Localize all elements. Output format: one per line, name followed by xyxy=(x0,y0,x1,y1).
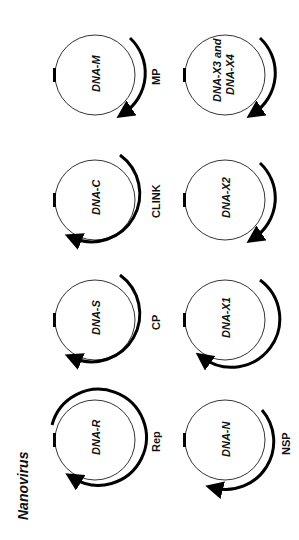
cr-box xyxy=(183,313,186,327)
nanovirus-genome-diagram: Nanovirus DNA-M DNA-C DNA-S DNA-R DNA-X3… xyxy=(0,0,299,540)
component-dna-r: DNA-R xyxy=(52,389,146,485)
protein-label-mp: MP xyxy=(150,69,162,86)
orf-arrow xyxy=(203,280,280,367)
protein-label-cp: CP xyxy=(150,315,162,330)
label-dna-x2: DNA-X2 xyxy=(220,177,232,218)
component-dna-x3-x4: DNA-X3 and DNA-X4 xyxy=(183,35,275,115)
protein-label-clink: CLINK xyxy=(150,184,162,218)
component-dna-s: DNA-S xyxy=(53,275,140,362)
label-dna-r: DNA-R xyxy=(90,420,102,455)
cr-box xyxy=(53,193,56,207)
cr-box xyxy=(183,193,186,207)
cr-box xyxy=(183,68,186,82)
cr-box xyxy=(53,313,56,327)
label-dna-x1: DNA-X1 xyxy=(220,297,232,338)
protein-label-nsp: NSP xyxy=(280,432,292,455)
component-dna-n: DNA-N xyxy=(183,400,274,489)
component-dna-c: DNA-C xyxy=(53,155,140,242)
label-dna-x3: DNA-X3 and xyxy=(211,38,223,102)
title-nanovirus: Nanovirus xyxy=(15,451,31,520)
label-dna-m: DNA-M xyxy=(90,55,102,92)
cr-box xyxy=(53,68,56,82)
label-dna-s: DNA-S xyxy=(90,300,102,335)
label-dna-n: DNA-N xyxy=(220,421,232,457)
component-dna-x2: DNA-X2 xyxy=(183,160,275,240)
protein-label-rep: Rep xyxy=(150,431,162,452)
label-dna-x4: DNA-X4 xyxy=(224,54,236,95)
orf-arrow xyxy=(73,275,140,362)
cr-box xyxy=(53,433,56,447)
label-dna-c: DNA-C xyxy=(90,179,102,215)
cr-box xyxy=(183,433,186,447)
component-dna-m: DNA-M xyxy=(53,35,145,115)
orf-arrow xyxy=(73,155,140,242)
component-dna-x1: DNA-X1 xyxy=(183,280,280,367)
